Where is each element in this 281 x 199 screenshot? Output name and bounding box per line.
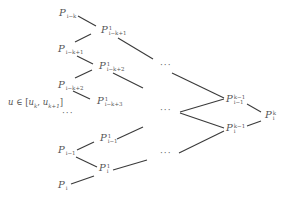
ellipsis-top: ···: [160, 60, 172, 70]
node-base: P: [59, 7, 66, 18]
edge: [75, 34, 91, 42]
node-pk-1-i: Pk−1i: [226, 123, 245, 134]
node-base: P: [58, 144, 65, 155]
node-scripts: i−1: [66, 146, 76, 156]
node-base: P: [58, 79, 65, 90]
node-p-i-k+1: P i−k+1: [58, 44, 84, 55]
node-sub: i−1: [108, 139, 118, 144]
edge: [118, 38, 153, 59]
node-scripts: 1i: [107, 164, 111, 174]
range-var: u: [8, 97, 13, 107]
ellipsis-left: ···: [62, 108, 74, 118]
node-p1-i-k+1: P1i−k+1: [101, 25, 127, 36]
node-p1-i-1: P1i−1: [100, 133, 118, 144]
parameter-range-label: u ∈ [uk, uk+1]: [8, 97, 63, 109]
node-scripts: 1i−k+1: [109, 26, 127, 36]
node-p1-i-k+3: P1i−k+3: [97, 96, 123, 107]
edge: [113, 73, 143, 88]
edge: [247, 121, 261, 126]
node-p-i-k: P i−k: [59, 8, 76, 19]
node-sub: i−k+3: [105, 102, 123, 107]
node-sub: i−k+2: [107, 67, 125, 72]
node-p1-i: P1i: [99, 163, 110, 174]
edge: [180, 99, 224, 112]
node-base: P: [58, 43, 65, 54]
edge: [78, 16, 96, 26]
node-sub: i−k+1: [66, 50, 84, 55]
node-sub: i: [273, 116, 276, 121]
node-sub: i: [107, 169, 111, 174]
ellipsis-bottom: ···: [160, 148, 172, 158]
edge: [247, 104, 261, 112]
node-base: P: [101, 24, 108, 35]
range-upper-sub: k+1: [48, 103, 59, 109]
node-scripts: ki: [273, 111, 276, 121]
node-base: P: [99, 60, 106, 71]
node-scripts: i−k+2: [66, 81, 84, 91]
node-pk-i: Pki: [265, 110, 276, 121]
edge: [71, 176, 94, 184]
edge: [73, 91, 90, 99]
node-base: P: [97, 95, 104, 106]
node-pk-1-i-1: Pk−1i−1: [226, 94, 245, 105]
edge: [179, 131, 224, 153]
edge: [180, 113, 224, 128]
edge: [77, 142, 94, 150]
element-of-symbol: ∈: [16, 97, 22, 107]
node-sub: i−k+1: [109, 31, 127, 36]
node-scripts: 1i−k+2: [107, 62, 125, 72]
node-p1-i-k+2: P1i−k+2: [99, 61, 125, 72]
node-base: P: [58, 179, 65, 190]
node-base: P: [99, 162, 106, 173]
edge: [113, 160, 147, 170]
node-base: P: [100, 132, 107, 143]
edge: [117, 127, 143, 139]
node-sub: i−k: [67, 14, 77, 19]
node-sub: i−1: [66, 151, 76, 156]
node-scripts: 1i−k+3: [105, 97, 123, 107]
edge: [75, 70, 92, 78]
node-scripts: i: [66, 181, 68, 191]
node-base: P: [265, 109, 272, 120]
node-scripts: i−k: [67, 9, 77, 19]
node-sub: i: [234, 129, 245, 134]
node-base: P: [226, 93, 233, 104]
node-p-i: P i: [58, 180, 68, 191]
node-sub: i−1: [234, 100, 245, 105]
node-scripts: 1i−1: [108, 134, 118, 144]
node-sub: i: [66, 186, 68, 191]
node-p-i-k+2: P i−k+2: [58, 80, 84, 91]
edge: [76, 157, 97, 167]
range-close-bracket: ]: [60, 97, 63, 107]
node-scripts: i−k+1: [66, 45, 84, 55]
node-scripts: k−1i: [234, 124, 245, 134]
node-base: P: [226, 122, 233, 133]
node-sub: i−k+2: [66, 86, 84, 91]
node-p-i-1: P i−1: [58, 145, 76, 156]
edge: [77, 56, 93, 64]
node-scripts: k−1i−1: [234, 95, 245, 105]
ellipsis-middle: ···: [160, 105, 172, 115]
edge: [172, 73, 224, 98]
